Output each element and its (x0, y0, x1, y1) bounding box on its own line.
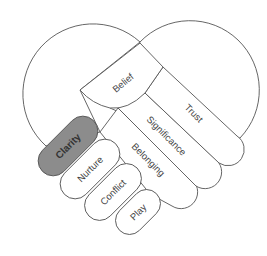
handshake-heart-diagram: Belonging Significance Trust Belief Play… (0, 0, 267, 256)
